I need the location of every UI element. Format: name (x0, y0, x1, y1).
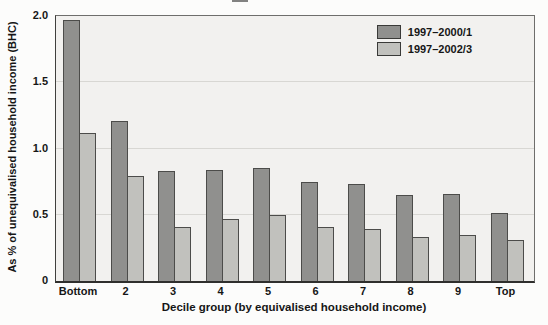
bar-1997-2000-1-4 (206, 170, 223, 281)
bar-1997-2002-3-bottom (79, 133, 96, 281)
x-axis-title: Decile group (by equivalised household i… (55, 301, 533, 313)
gridline-1 (56, 148, 534, 149)
bar-1997-2000-1-5 (253, 168, 270, 281)
bar-1997-2000-1-9 (443, 194, 460, 281)
legend-item-series-1: 1997–2000/1 (377, 25, 472, 39)
bar-1997-2002-3-3 (174, 227, 191, 281)
legend-swatch-1997-2000-1 (377, 25, 401, 39)
bar-1997-2000-1-7 (348, 184, 365, 281)
y-tick-0.5: 0.5 (10, 207, 48, 221)
bar-1997-2000-1-8 (396, 195, 413, 281)
legend-item-series-2: 1997–2002/3 (377, 42, 472, 56)
bar-1997-2000-1-3 (158, 171, 175, 281)
bar-1997-2002-3-4 (222, 219, 239, 281)
scan-artifact (232, 0, 248, 2)
bar-1997-2002-3-top (507, 240, 524, 281)
bar-1997-2000-1-bottom (63, 20, 80, 281)
bar-1997-2002-3-5 (269, 215, 286, 281)
legend-label-1997-2000-1: 1997–2000/1 (408, 25, 472, 39)
bar-1997-2002-3-2 (127, 176, 144, 281)
gridline-1.5 (56, 81, 534, 82)
bar-1997-2002-3-8 (412, 237, 429, 281)
bar-1997-2000-1-2 (111, 121, 128, 281)
bar-1997-2000-1-6 (301, 182, 318, 281)
plot-area: 1997–2000/1 1997–2002/3 (55, 15, 535, 283)
bar-1997-2002-3-7 (364, 229, 381, 281)
y-tick-1.5: 1.5 (10, 74, 48, 88)
bar-1997-2000-1-top (491, 213, 508, 281)
y-tick-1.0: 1.0 (10, 141, 48, 155)
legend-swatch-1997-2002-3 (377, 42, 401, 56)
bar-chart-figure: As % of unequivalised household income (… (0, 0, 548, 325)
x-tick-top: Top (466, 285, 546, 298)
bar-1997-2002-3-6 (317, 227, 334, 281)
legend-label-1997-2002-3: 1997–2002/3 (408, 42, 472, 56)
bar-1997-2002-3-9 (459, 235, 476, 281)
legend: 1997–2000/1 1997–2002/3 (377, 25, 472, 59)
y-tick-2.0: 2.0 (10, 8, 48, 22)
